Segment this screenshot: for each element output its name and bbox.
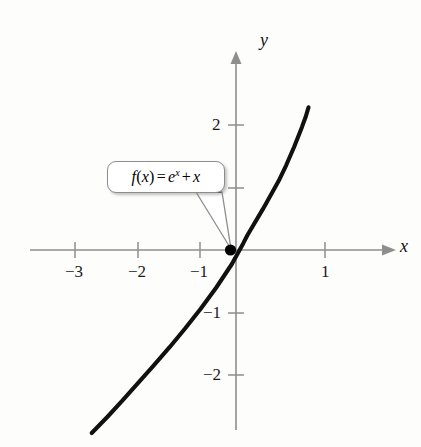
- callout-tail: [196, 192, 231, 249]
- equation-plus: +: [180, 168, 193, 185]
- equation-arg: x: [142, 168, 149, 185]
- equation-paren-close: ): [149, 168, 155, 185]
- x-tick-label-neg1: −1: [190, 262, 208, 282]
- equation-term: x: [193, 168, 200, 185]
- y-tick-label-neg1: −1: [203, 303, 221, 323]
- root-point-marker: [225, 244, 236, 255]
- x-axis-label: x: [400, 236, 408, 257]
- x-tick-label-neg2: −2: [128, 262, 146, 282]
- y-tick-label-pos2: 2: [212, 115, 221, 135]
- y-axis-arrow-icon: [231, 51, 242, 64]
- equation-equals: =: [155, 168, 168, 185]
- callout-equation-text: f(x)=ex+x: [132, 168, 201, 186]
- y-axis-label: y: [260, 30, 268, 51]
- x-tick-label-pos1: 1: [321, 262, 330, 282]
- x-axis-arrow-icon: [382, 245, 396, 256]
- function-callout-box: f(x)=ex+x: [107, 161, 225, 193]
- y-tick-label-neg2: −2: [203, 365, 221, 385]
- x-tick-label-neg3: −3: [65, 262, 83, 282]
